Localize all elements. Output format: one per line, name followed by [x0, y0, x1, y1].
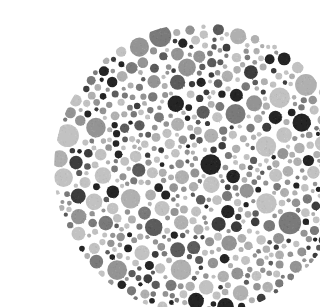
ishihara-plate-canvas: [40, 16, 320, 307]
ishihara-plate-figure: Grayscale Ishihara-style color vision te…: [40, 16, 320, 307]
